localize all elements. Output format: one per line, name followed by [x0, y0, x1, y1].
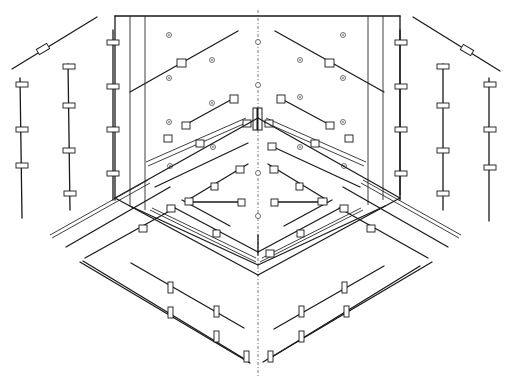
technical-drawing — [0, 0, 511, 380]
left-outer-rails — [12, 17, 119, 218]
diagram-canvas — [0, 0, 511, 380]
floor-clips — [139, 166, 375, 257]
front-lower-rails-left — [83, 261, 249, 362]
right-outer-rails — [395, 17, 500, 221]
back-wall-rails-right — [264, 31, 384, 187]
back-wall-rails-left — [130, 31, 251, 187]
front-lower-rails-right — [268, 266, 420, 362]
